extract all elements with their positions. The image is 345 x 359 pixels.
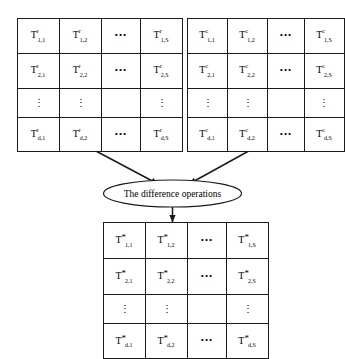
- horizontal-ellipsis: •••: [268, 53, 305, 88]
- matrix-row: ⋮⋮ ⋮: [188, 88, 345, 117]
- matrix-cell: T*2,2: [146, 258, 188, 294]
- matrix-row: Tr1,1Tr1,2•••Tr1,S: [18, 19, 183, 54]
- matrix-cell: T*d,1: [104, 323, 146, 359]
- matrix-cell: Tr1,1: [18, 19, 60, 54]
- matrix-cell: T*1,2: [146, 223, 188, 259]
- vertical-ellipsis: ⋮: [60, 88, 102, 117]
- horizontal-ellipsis: •••: [188, 323, 227, 359]
- matrix-row: Tc1,1Tc1,2•••Tc1,S: [188, 19, 345, 54]
- vertical-ellipsis: ⋮: [304, 88, 344, 117]
- matrix-row: T*2,1T*2,2•••T*2,S: [104, 258, 269, 294]
- matrix-row: ⋮⋮ ⋮: [18, 88, 183, 117]
- matrix-cell: Tc2,2: [228, 53, 268, 88]
- matrix-cell: Tc1,1: [188, 19, 228, 54]
- matrix-cell: T*d,S: [227, 323, 269, 359]
- matrix-row: Tc2,1Tc2,2•••Tc2,S: [188, 53, 345, 88]
- matrix-cell: Tcd,2: [228, 117, 268, 152]
- horizontal-ellipsis: •••: [188, 258, 227, 294]
- horizontal-ellipsis: •••: [102, 117, 141, 152]
- matrix-cell: T*1,S: [227, 223, 269, 259]
- matrix-cell-blank: [268, 88, 305, 117]
- matrix-row: Trd,1Trd,2•••Trd,S: [18, 117, 183, 152]
- matrix-cell: Tc2,S: [304, 53, 344, 88]
- horizontal-ellipsis: •••: [268, 19, 305, 54]
- matrix-row: Tcd,1Tcd,2•••Tcd,S: [188, 117, 345, 152]
- horizontal-ellipsis: •••: [102, 53, 141, 88]
- matrix-cell: T*1,1: [104, 223, 146, 259]
- matrix-cell: Tr2,1: [18, 53, 60, 88]
- diagram-canvas: The difference operations Tr1,1Tr1,2•••T…: [0, 0, 345, 359]
- vertical-ellipsis: ⋮: [227, 294, 269, 323]
- matrix-cell: Tcd,S: [304, 117, 344, 152]
- matrix-cell-blank: [102, 88, 141, 117]
- horizontal-ellipsis: •••: [188, 223, 227, 259]
- matrix-row: ⋮⋮ ⋮: [104, 294, 269, 323]
- matrix-row: T*1,1T*1,2•••T*1,S: [104, 223, 269, 259]
- matrix-cell: Trd,1: [18, 117, 60, 152]
- vertical-ellipsis: ⋮: [228, 88, 268, 117]
- vertical-ellipsis: ⋮: [18, 88, 60, 117]
- matrix-cell: Tcd,1: [188, 117, 228, 152]
- matrix-cell: Tr2,2: [60, 53, 102, 88]
- matrix-cell: T*2,S: [227, 258, 269, 294]
- matrix-cell: T*2,1: [104, 258, 146, 294]
- vertical-ellipsis: ⋮: [188, 88, 228, 117]
- matrix-cell: Tr2,S: [141, 53, 183, 88]
- vertical-ellipsis: ⋮: [146, 294, 188, 323]
- row-feature-matrix: Tr1,1Tr1,2•••Tr1,STr2,1Tr2,2•••Tr2,S⋮⋮ ⋮…: [17, 18, 183, 152]
- matrix-cell: Tc2,1: [188, 53, 228, 88]
- matrix-cell: T*d,2: [146, 323, 188, 359]
- matrix-cell: Tc1,S: [304, 19, 344, 54]
- vertical-ellipsis: ⋮: [141, 88, 183, 117]
- matrix-cell: Trd,S: [141, 117, 183, 152]
- matrix-cell: Tc1,2: [228, 19, 268, 54]
- matrix-row: T*d,1T*d,2•••T*d,S: [104, 323, 269, 359]
- process-node-label: The difference operations: [103, 180, 242, 207]
- horizontal-ellipsis: •••: [102, 19, 141, 54]
- matrix-cell: Tr1,S: [141, 19, 183, 54]
- horizontal-ellipsis: •••: [268, 117, 305, 152]
- difference-result-matrix: T*1,1T*1,2•••T*1,ST*2,1T*2,2•••T*2,S⋮⋮ ⋮…: [103, 222, 269, 359]
- matrix-row: Tr2,1Tr2,2•••Tr2,S: [18, 53, 183, 88]
- matrix-cell-blank: [188, 294, 227, 323]
- matrix-cell: Trd,2: [60, 117, 102, 152]
- vertical-ellipsis: ⋮: [104, 294, 146, 323]
- matrix-cell: Tr1,2: [60, 19, 102, 54]
- column-feature-matrix: Tc1,1Tc1,2•••Tc1,STc2,1Tc2,2•••Tc2,S⋮⋮ ⋮…: [187, 18, 345, 152]
